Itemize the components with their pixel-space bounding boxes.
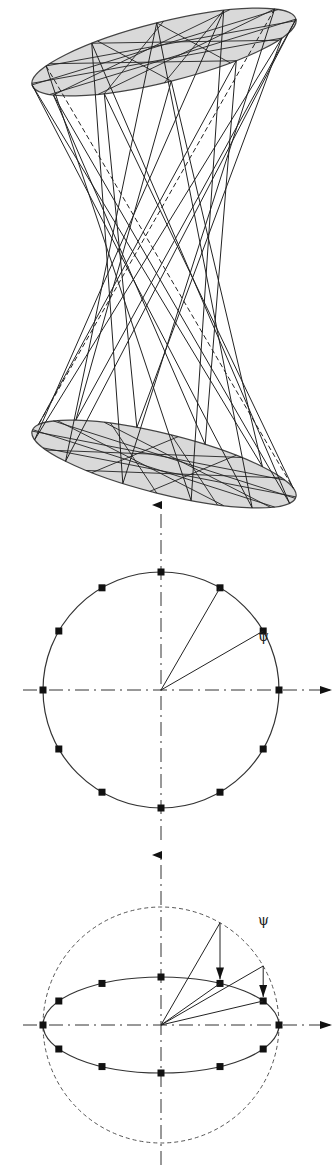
point-marker [276, 687, 283, 694]
point-marker [260, 746, 267, 753]
radius-line [161, 588, 220, 690]
point-marker [99, 1063, 106, 1070]
figure-canvas: ψ ψ [0, 0, 336, 1168]
point-marker [55, 998, 62, 1005]
circle-diagram [23, 505, 331, 840]
point-marker [40, 687, 47, 694]
point-marker [158, 974, 165, 981]
point-marker [99, 980, 106, 987]
point-marker [276, 1022, 283, 1029]
hyperboloid [25, 0, 303, 526]
point-marker [158, 805, 165, 812]
generator-line [35, 38, 282, 440]
psi-label-ellipse: ψ [258, 912, 269, 928]
point-marker [158, 1070, 165, 1077]
point-marker [55, 1046, 62, 1053]
radius-line [161, 631, 263, 690]
point-marker [55, 746, 62, 753]
point-marker [55, 628, 62, 635]
generator-line [76, 81, 171, 420]
point-marker [158, 569, 165, 576]
top-disc [25, 0, 303, 114]
point-marker [99, 789, 106, 796]
generator-line [53, 95, 205, 444]
ellipse-radius-line [161, 1001, 263, 1025]
generator-line [205, 61, 236, 445]
ellipse-diagram [23, 855, 331, 1165]
point-marker [99, 584, 106, 591]
point-marker [217, 1063, 224, 1070]
circle-radius-line [161, 923, 220, 1025]
point-marker [40, 1022, 47, 1029]
point-marker [217, 789, 224, 796]
point-marker [260, 1046, 267, 1053]
psi-label-circle: ψ [258, 628, 269, 644]
generator-line [92, 43, 123, 483]
circle-radius-line [161, 966, 263, 1025]
ellipse-radius-line [161, 983, 220, 1025]
